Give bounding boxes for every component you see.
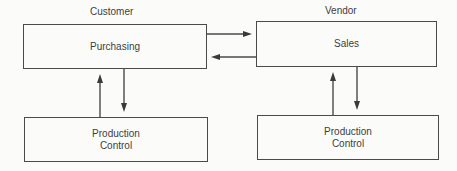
- arrowhead-up-icon: [330, 72, 336, 81]
- arrowhead-down-icon: [121, 103, 127, 112]
- arrowhead-right-icon: [243, 31, 252, 37]
- connector-arrows: [0, 0, 457, 171]
- arrowhead-left-icon: [211, 54, 220, 60]
- arrowhead-down-icon: [354, 101, 360, 110]
- diagram-canvas: Customer Vendor Purchasing Sales Product…: [0, 0, 457, 171]
- arrowhead-up-icon: [97, 74, 103, 83]
